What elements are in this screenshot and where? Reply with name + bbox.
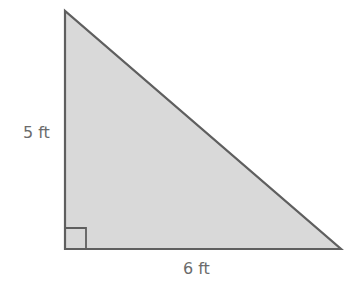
diagram-canvas: 5 ft 6 ft [0, 0, 358, 301]
base-label: 6 ft [183, 259, 210, 278]
triangle-figure [0, 0, 358, 301]
right-triangle [65, 11, 341, 249]
height-label: 5 ft [23, 123, 50, 142]
